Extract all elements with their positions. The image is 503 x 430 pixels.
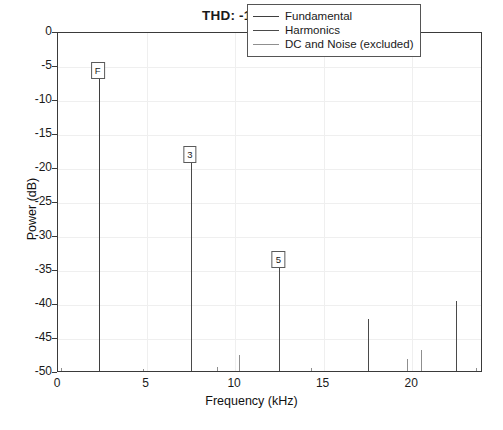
spectrum-stem-noise bbox=[143, 369, 144, 371]
legend-item[interactable]: Fundamental bbox=[253, 9, 413, 23]
gridline-vertical bbox=[412, 33, 413, 371]
y-tick-label: -35 bbox=[8, 262, 52, 276]
spectrum-stem-noise bbox=[217, 367, 218, 371]
y-tick-label: -30 bbox=[8, 228, 52, 242]
legend-line-icon bbox=[253, 16, 279, 17]
spectrum-stem-harmonic bbox=[279, 267, 280, 371]
gridline-vertical bbox=[324, 33, 325, 371]
gridline-horizontal bbox=[58, 271, 481, 272]
chart-legend: FundamentalHarmonicsDC and Noise (exclud… bbox=[247, 4, 421, 57]
gridline-horizontal bbox=[58, 135, 481, 136]
spectrum-stem-noise bbox=[239, 355, 240, 371]
gridline-vertical bbox=[235, 33, 236, 371]
y-tick-label: -40 bbox=[8, 296, 52, 310]
x-tick-label: 5 bbox=[126, 376, 166, 390]
spectrum-stem-noise bbox=[476, 368, 477, 371]
legend-item[interactable]: Harmonics bbox=[253, 23, 413, 37]
legend-label: Harmonics bbox=[285, 24, 340, 36]
spectrum-stem-noise bbox=[421, 350, 422, 371]
harmonic-marker-3: 3 bbox=[183, 146, 196, 163]
gridline-horizontal bbox=[58, 67, 481, 68]
y-axis-tick bbox=[52, 372, 57, 373]
gridline-horizontal bbox=[58, 305, 481, 306]
plot-area bbox=[57, 32, 482, 372]
harmonic-marker-5: 5 bbox=[272, 251, 285, 268]
spectrum-stem-noise bbox=[407, 359, 408, 371]
thd-spectrum-figure: THD: -12.71 dB Power (dB) Frequency (kHz… bbox=[0, 0, 503, 430]
x-axis-title: Frequency (kHz) bbox=[0, 394, 503, 408]
y-tick-label: -25 bbox=[8, 194, 52, 208]
x-tick-label: 0 bbox=[37, 376, 77, 390]
legend-label: DC and Noise (excluded) bbox=[285, 38, 413, 50]
gridline-horizontal bbox=[58, 203, 481, 204]
y-tick-label: -45 bbox=[8, 330, 52, 344]
harmonic-marker-F: F bbox=[91, 62, 105, 79]
y-tick-label: -10 bbox=[8, 92, 52, 106]
gridline-horizontal bbox=[58, 237, 481, 238]
spectrum-stem-noise bbox=[311, 368, 312, 371]
gridline-vertical bbox=[147, 33, 148, 371]
legend-line-icon bbox=[253, 44, 279, 45]
gridline-horizontal bbox=[58, 169, 481, 170]
gridline-horizontal bbox=[58, 101, 481, 102]
spectrum-stem-fundamental bbox=[99, 78, 100, 371]
x-tick-label: 20 bbox=[391, 376, 431, 390]
x-tick-label: 10 bbox=[214, 376, 254, 390]
spectrum-stem-noise bbox=[61, 368, 62, 371]
legend-label: Fundamental bbox=[285, 10, 352, 22]
y-tick-label: -20 bbox=[8, 160, 52, 174]
legend-line-icon bbox=[253, 30, 279, 31]
spectrum-stem-harmonic bbox=[191, 162, 192, 371]
legend-item[interactable]: DC and Noise (excluded) bbox=[253, 37, 413, 51]
spectrum-stem-harmonic bbox=[368, 319, 369, 371]
y-tick-label: -5 bbox=[8, 58, 52, 72]
y-tick-label: 0 bbox=[8, 24, 52, 38]
x-tick-label: 15 bbox=[303, 376, 343, 390]
gridline-horizontal bbox=[58, 339, 481, 340]
y-tick-label: -15 bbox=[8, 126, 52, 140]
spectrum-stem-harmonic bbox=[456, 301, 457, 371]
